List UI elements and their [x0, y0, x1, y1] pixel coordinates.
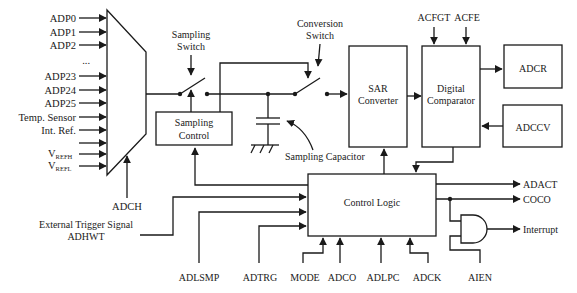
ext-trigger-label-1: External Trigger Signal — [39, 219, 133, 230]
conversion-switch-label-2: Switch — [306, 30, 334, 41]
input-adp25: ADP25 — [44, 98, 76, 109]
adtrg-label: ADTRG — [243, 272, 277, 283]
sampling-control-label-2: Control — [179, 130, 210, 141]
input-adp2: ADP2 — [50, 40, 76, 51]
aien-label: AIEN — [468, 272, 492, 283]
input-vrefh: VREFH — [48, 148, 73, 160]
adact-label: ADACT — [523, 179, 557, 190]
adch-label: ADCH — [112, 201, 142, 212]
adlsmp-label: ADLSMP — [179, 272, 220, 283]
mode-label: MODE — [290, 272, 319, 283]
input-adp24: ADP24 — [44, 85, 76, 96]
input-adp0: ADP0 — [50, 13, 76, 24]
analog-mux — [107, 10, 146, 175]
adc-block-diagram: ADP0 ADP1 ADP2 ... ADP23 ADP24 ADP25 Tem… — [0, 0, 577, 293]
input-adp1: ADP1 — [50, 27, 76, 38]
adccv-label: ADCCV — [515, 122, 551, 133]
sampling-switch — [180, 78, 205, 94]
mux-inputs: ADP0 ADP1 ADP2 ... ADP23 ADP24 ADP25 Tem… — [18, 13, 106, 172]
input-int-ref: Int. Ref. — [41, 125, 76, 136]
comparator-label-2: Comparator — [427, 95, 475, 106]
input-temp-sensor: Temp. Sensor — [18, 112, 76, 123]
bottom-inputs: ADLSMP ADTRG MODE ADCO ADLPC ADCK AIEN — [179, 272, 492, 283]
sampling-switch-label-2: Switch — [177, 41, 205, 52]
input-ellipsis: ... — [82, 55, 90, 66]
sar-label-2: Converter — [358, 95, 399, 106]
conversion-switch — [295, 78, 320, 94]
and-gate — [461, 215, 487, 243]
ext-trigger-label-2: ADHWT — [67, 231, 104, 242]
sampling-control-label-1: Sampling — [175, 117, 213, 128]
adlpc-label: ADLPC — [367, 272, 400, 283]
coco-label: COCO — [523, 194, 551, 205]
sampling-capacitor-label: Sampling Capacitor — [285, 151, 365, 162]
conversion-switch-label-1: Conversion — [297, 18, 343, 29]
adcr-label: ADCR — [519, 63, 547, 74]
sar-label-1: SAR — [368, 83, 388, 94]
sampling-capacitor — [251, 94, 280, 153]
sampling-switch-label-1: Sampling — [172, 29, 210, 40]
control-logic-label: Control Logic — [344, 197, 401, 208]
adco-label: ADCO — [328, 272, 356, 283]
acfe-label: ACFE — [454, 12, 480, 23]
input-adp23: ADP23 — [44, 71, 76, 82]
adck-label: ADCK — [413, 272, 442, 283]
comparator-label-1: Digital — [437, 83, 465, 94]
interrupt-label: Interrupt — [523, 224, 558, 235]
acfgt-label: ACFGT — [418, 12, 451, 23]
input-vrefl: VREFL — [48, 160, 72, 172]
